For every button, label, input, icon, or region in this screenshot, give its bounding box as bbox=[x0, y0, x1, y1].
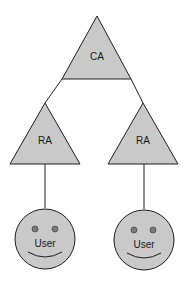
ca-label: CA bbox=[90, 51, 104, 62]
ra-right-triangle bbox=[108, 103, 178, 164]
edge-ca-ra-left bbox=[45, 79, 62, 103]
user-left-eye-left-icon bbox=[32, 226, 38, 232]
node-ra-left: RA bbox=[10, 103, 80, 164]
user-right-label: User bbox=[133, 239, 155, 250]
ra-right-label: RA bbox=[136, 135, 150, 146]
node-ra-right: RA bbox=[108, 103, 178, 164]
user-left-label: User bbox=[34, 238, 56, 249]
ra-left-label: RA bbox=[38, 135, 52, 146]
ca-triangle bbox=[62, 16, 131, 79]
node-user-right: User bbox=[114, 210, 174, 270]
ra-left-triangle bbox=[10, 103, 80, 164]
node-ca: CA bbox=[62, 16, 131, 79]
user-left-eye-right-icon bbox=[52, 226, 58, 232]
pki-hierarchy-diagram: CA RA RA User User bbox=[0, 0, 186, 285]
user-right-eye-right-icon bbox=[150, 227, 156, 233]
node-user-left: User bbox=[15, 209, 75, 269]
user-right-eye-left-icon bbox=[131, 227, 137, 233]
edge-ca-ra-right bbox=[131, 79, 143, 103]
